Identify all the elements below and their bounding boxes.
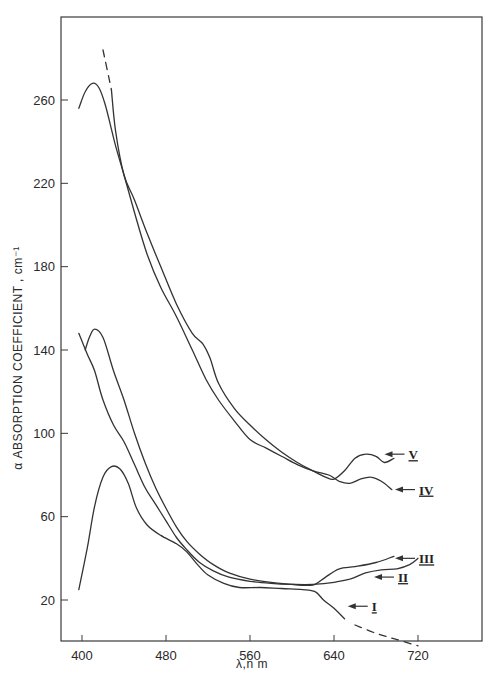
y-tick-label: 180 — [33, 259, 55, 274]
series-label-v: V — [409, 447, 419, 462]
y-tick-label: 260 — [33, 93, 55, 108]
arrowhead-icon — [395, 555, 403, 561]
y-tick-label: 100 — [33, 426, 55, 441]
curve-i-extrapolation — [355, 625, 418, 646]
y-axis: 2060100140180220260 — [33, 93, 68, 608]
x-tick-label: 480 — [155, 648, 177, 663]
x-tick-label: 720 — [407, 648, 429, 663]
y-tick-label: 140 — [33, 343, 55, 358]
series-labels: IIIIIIIVV — [348, 447, 434, 614]
arrowhead-icon — [348, 603, 356, 609]
curve-i — [79, 466, 345, 619]
arrowhead-icon — [385, 451, 393, 457]
y-tick-label: 60 — [41, 509, 55, 524]
series-label-iii: III — [419, 551, 434, 566]
arrowhead-icon — [395, 487, 403, 493]
curve-iv — [79, 83, 392, 489]
y-axis-label: α ABSORPTION COEFFICIENT , cm⁻¹ — [11, 246, 25, 470]
plot-area — [79, 50, 418, 646]
curve-v-extrapolation — [103, 50, 111, 90]
series-label-ii: II — [398, 570, 408, 585]
curve-ii — [79, 333, 418, 584]
y-tick-label: 20 — [41, 593, 55, 608]
series-label-iv: IV — [419, 483, 434, 498]
curve-v — [111, 90, 394, 480]
x-tick-label: 400 — [71, 648, 93, 663]
series-label-i: I — [372, 599, 377, 614]
y-tick-label: 220 — [33, 176, 55, 191]
x-tick-label: 640 — [323, 648, 345, 663]
arrowhead-icon — [374, 574, 382, 580]
x-axis-label: λ,n m — [236, 657, 268, 671]
plot-frame — [61, 17, 482, 641]
absorption-chart: 400480560640720 2060100140180220260 IIII… — [0, 0, 497, 684]
